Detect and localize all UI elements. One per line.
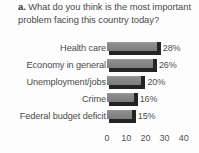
bar-face: [107, 42, 157, 51]
x-axis: 010203040: [0, 132, 199, 146]
bar-category-label: Economy in general: [2, 59, 106, 71]
bar-row: Economy in general26%: [0, 58, 199, 75]
bar-row: Health care28%: [0, 41, 199, 58]
question-text: What do you think is the most important …: [18, 1, 191, 25]
bar-end-cap: [134, 93, 138, 106]
bar-face: [107, 110, 132, 119]
bar: [107, 42, 161, 55]
bar-end-cap: [157, 42, 161, 55]
bar-face: [107, 76, 141, 85]
x-axis-tick-label: 0: [99, 132, 115, 144]
bar-end-cap: [132, 110, 136, 123]
bar-rows: Health care28%Economy in general26%Unemp…: [0, 41, 199, 126]
x-axis-tick-label: 10: [118, 132, 134, 144]
bar-chart: Health care28%Economy in general26%Unemp…: [0, 41, 199, 153]
bar-category-label: Federal budget deficit: [2, 110, 106, 122]
bar: [107, 59, 157, 72]
bar-shadow: [109, 51, 157, 55]
bar-shadow: [109, 102, 134, 106]
x-axis-tick-label: 30: [157, 132, 173, 144]
bar-category-label: Unemployment/jobs: [2, 76, 106, 88]
bar-category-label: Health care: [2, 42, 106, 54]
bar-end-cap: [141, 76, 145, 89]
bar-row: Unemployment/jobs20%: [0, 75, 199, 92]
bar-value-label: 20%: [147, 76, 165, 88]
chart-figure: a. What do you think is the most importa…: [0, 0, 199, 153]
bar-category-label: Crime: [2, 93, 106, 105]
bar-row: Crime16%: [0, 92, 199, 109]
bar: [107, 76, 145, 89]
x-axis-tick-label: 40: [176, 132, 192, 144]
bar-value-label: 26%: [159, 59, 177, 71]
bar: [107, 110, 136, 123]
bar-face: [107, 93, 134, 102]
bar-value-label: 28%: [163, 42, 181, 54]
question-title: a. What do you think is the most importa…: [18, 1, 194, 26]
bar: [107, 93, 138, 106]
bar-value-label: 16%: [140, 93, 158, 105]
x-axis-tick-label: 20: [137, 132, 153, 144]
question-lead-letter: a.: [18, 1, 26, 12]
bar-row: Federal budget deficit15%: [0, 109, 199, 126]
bar-value-label: 15%: [138, 110, 156, 122]
bar-shadow: [109, 85, 141, 89]
bar-shadow: [109, 119, 132, 123]
bar-end-cap: [153, 59, 157, 72]
bar-shadow: [109, 68, 153, 72]
bar-face: [107, 59, 153, 68]
